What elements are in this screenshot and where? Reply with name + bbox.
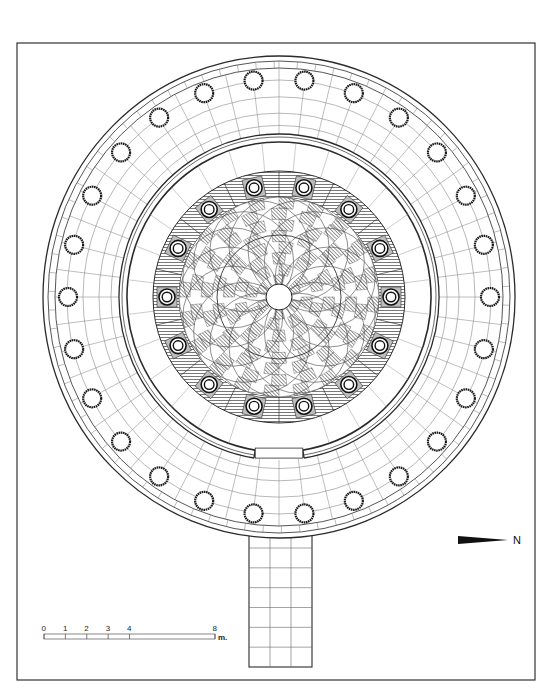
outer-column bbox=[195, 492, 213, 510]
inner-column-core bbox=[204, 205, 214, 215]
central-checkered-floor bbox=[179, 197, 379, 397]
floor-tile bbox=[279, 219, 294, 231]
scale-unit-label: m. bbox=[218, 633, 227, 642]
inner-column-core bbox=[249, 183, 259, 193]
north-arrow: N bbox=[458, 534, 521, 546]
inner-column-core bbox=[375, 244, 385, 254]
inner-column-core bbox=[249, 401, 259, 411]
corridor-outline bbox=[249, 520, 312, 667]
inner-column-core bbox=[386, 292, 396, 302]
outer-column bbox=[345, 492, 363, 510]
inner-column-core bbox=[204, 380, 214, 390]
scale-tick-label: 1 bbox=[63, 624, 68, 633]
outer-column bbox=[245, 72, 263, 90]
floor-tile bbox=[271, 374, 286, 385]
floor-tile bbox=[344, 297, 356, 312]
outer-column bbox=[65, 340, 83, 358]
outer-column bbox=[65, 236, 83, 254]
inner-column-core bbox=[173, 341, 183, 351]
inner-column-core bbox=[344, 205, 354, 215]
outer-column bbox=[428, 433, 446, 451]
scale-tick-label: 0 bbox=[42, 624, 47, 633]
floor-tile bbox=[354, 304, 367, 320]
outer-column bbox=[428, 143, 446, 161]
outer-column bbox=[112, 433, 130, 451]
outer-column bbox=[390, 109, 408, 127]
outer-column bbox=[457, 187, 475, 205]
floor-tile bbox=[190, 274, 203, 290]
scale-tick-label: 3 bbox=[106, 624, 111, 633]
outer-column bbox=[457, 389, 475, 407]
center-opening bbox=[266, 284, 292, 310]
floor-tile bbox=[264, 362, 279, 374]
outer-column bbox=[59, 288, 77, 306]
outer-column bbox=[475, 236, 493, 254]
entrance-corridor bbox=[249, 520, 312, 667]
outer-column bbox=[390, 467, 408, 485]
inner-column-core bbox=[344, 380, 354, 390]
floor-plan-drawing: N 012348m. bbox=[0, 0, 549, 693]
scale-tick-label: 4 bbox=[127, 624, 132, 633]
inner-column-core bbox=[299, 401, 309, 411]
outer-column bbox=[295, 504, 313, 522]
scale-bar: 012348m. bbox=[42, 624, 228, 642]
inner-column-core bbox=[173, 244, 183, 254]
scale-tick-label: 2 bbox=[84, 624, 89, 633]
outer-column bbox=[150, 109, 168, 127]
outer-column bbox=[475, 340, 493, 358]
threshold bbox=[255, 448, 303, 458]
outer-column bbox=[345, 84, 363, 102]
outer-column bbox=[83, 389, 101, 407]
inner-column-core bbox=[162, 292, 172, 302]
north-label: N bbox=[513, 534, 521, 546]
floor-tile bbox=[201, 282, 213, 297]
outer-column bbox=[112, 143, 130, 161]
scale-tick-label: 8 bbox=[213, 624, 218, 633]
outer-column bbox=[150, 467, 168, 485]
outer-column bbox=[481, 288, 499, 306]
outer-column bbox=[195, 84, 213, 102]
north-arrow-icon bbox=[458, 536, 508, 544]
outer-column bbox=[295, 72, 313, 90]
floor-tile bbox=[271, 208, 286, 219]
outer-column bbox=[83, 187, 101, 205]
inner-column-core bbox=[299, 183, 309, 193]
outer-column bbox=[245, 504, 263, 522]
inner-column-core bbox=[375, 341, 385, 351]
